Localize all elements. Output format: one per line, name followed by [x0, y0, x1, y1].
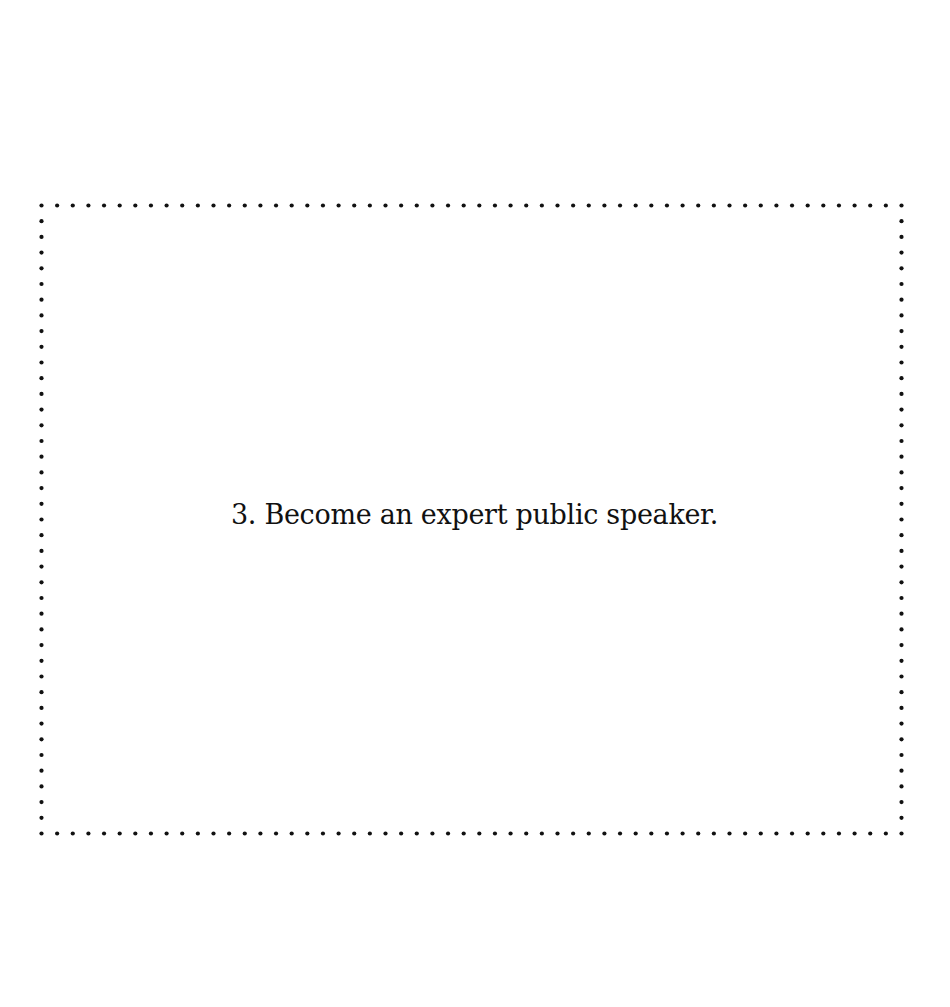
card-text: 3. Become an expert public speaker. — [39, 499, 910, 530]
text-card: 3. Become an expert public speaker. — [39, 203, 903, 835]
